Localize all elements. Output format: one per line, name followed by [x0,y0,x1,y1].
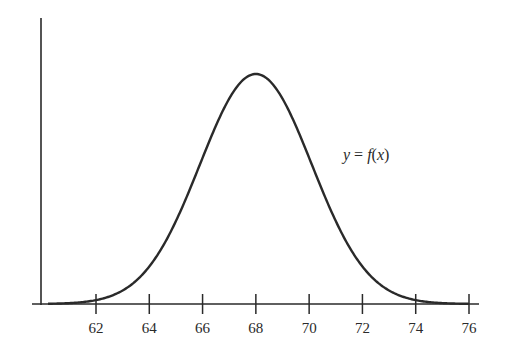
x-tick-label-64: 64 [142,320,158,336]
x-tick-label-68: 68 [248,320,263,336]
curve-label: y = f(x) [341,146,389,164]
x-tick-label-76: 76 [462,320,478,336]
normal-curve-chart: 6264666870727476 y = f(x) [0,0,508,353]
x-tick-label-62: 62 [89,320,104,336]
x-tick-label-66: 66 [195,320,211,336]
x-tick-label-72: 72 [355,320,370,336]
x-tick-label-74: 74 [408,320,424,336]
x-tick-label-70: 70 [302,320,317,336]
normal-curve [48,74,469,304]
